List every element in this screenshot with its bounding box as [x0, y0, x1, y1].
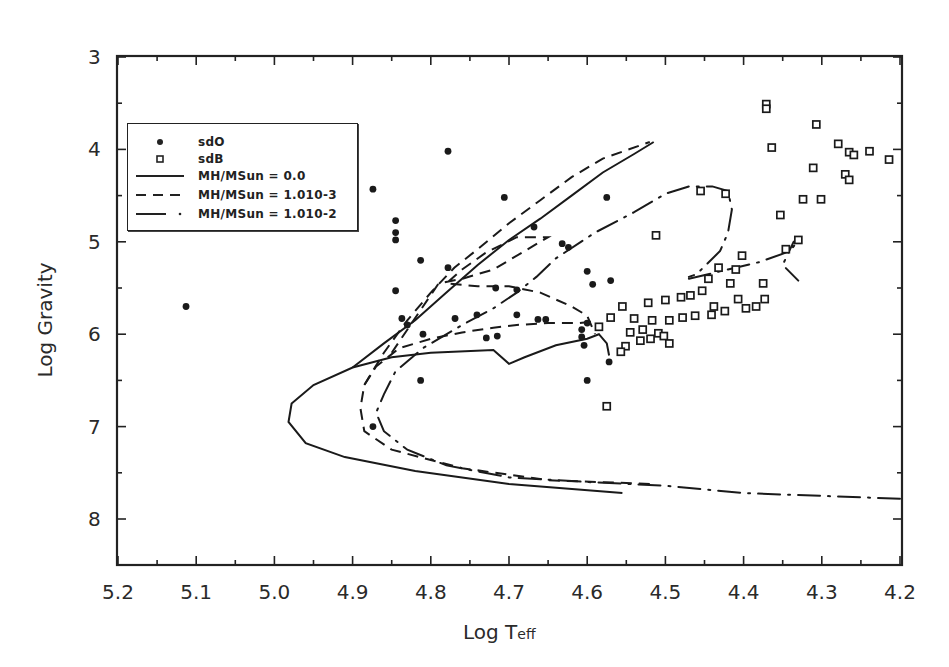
dash-dot-line-icon [128, 206, 190, 222]
x-tick-label: 4.5 [649, 580, 681, 604]
sdb-point [850, 151, 857, 158]
sdb-point [710, 303, 717, 310]
legend: sdO sdB MH/MSun = 0.0 MH/MSun = 1.010-3 … [127, 123, 358, 231]
sdb-point [679, 314, 686, 321]
sdb-point [692, 312, 699, 319]
sdo-point [452, 315, 459, 322]
x-tick-label: 4.8 [415, 580, 447, 604]
solid-line-icon [128, 168, 190, 184]
sdb-point [727, 280, 734, 287]
legend-label: sdO [198, 135, 225, 149]
sdo-point [531, 224, 538, 231]
legend-item-dashdot: MH/MSun = 1.010-2 [128, 206, 337, 222]
sdo-point [398, 315, 405, 322]
sdo-point [183, 303, 190, 310]
sdo-point [404, 322, 411, 329]
sdo-point [578, 334, 585, 341]
sdb-point [637, 337, 644, 344]
sdo-point [513, 286, 520, 293]
sdo-point [483, 334, 490, 341]
x-tick-label: 4.6 [571, 580, 603, 604]
sdo-point [370, 186, 377, 193]
sdb-point [742, 305, 749, 312]
legend-item-sdb: sdB [128, 151, 224, 167]
sdo-point [392, 237, 399, 244]
y-tick-label: 8 [88, 507, 101, 531]
x-axis-label-subscript: eff [517, 626, 535, 642]
sdb-point [647, 335, 654, 342]
sdb-point [595, 323, 602, 330]
sdo-point [584, 320, 591, 327]
sdo-point [535, 316, 542, 323]
sdo-point [542, 316, 549, 323]
sdb-point [617, 348, 624, 355]
sdb-point [653, 232, 660, 239]
sdb-point [768, 144, 775, 151]
x-tick-label: 5.2 [102, 580, 134, 604]
sdb-point [846, 176, 853, 183]
sdb-point [735, 296, 742, 303]
sdb-point [697, 187, 704, 194]
legend-label: MH/MSun = 1.010-2 [198, 207, 337, 221]
sdb-point [886, 156, 893, 163]
sdb-point [715, 264, 722, 271]
legend-label: MH/MSun = 1.010-3 [198, 188, 337, 202]
sdo-point [584, 377, 591, 384]
sdb-point [810, 164, 817, 171]
sdo-point [420, 331, 427, 338]
x-tick-label: 4.7 [493, 580, 525, 604]
y-axis-label: Log Gravity [33, 262, 57, 377]
sdb-point [721, 308, 728, 315]
x-axis-label-main: Log T [463, 620, 517, 644]
track-solid [289, 334, 623, 493]
sdo-point [492, 285, 499, 292]
sdb-point [866, 148, 873, 155]
sdb-point [753, 303, 760, 310]
x-tick-label: 4.4 [728, 580, 760, 604]
sdb-point [666, 317, 673, 324]
legend-item-sdo: sdO [128, 134, 225, 150]
sdo-point [589, 281, 596, 288]
sdb-point [687, 292, 694, 299]
sdb-point [760, 280, 767, 287]
y-tick-label: 6 [88, 322, 101, 346]
x-tick-label: 5.0 [258, 580, 290, 604]
sdo-point [392, 229, 399, 236]
sdo-point [603, 194, 610, 201]
plot-area [0, 0, 949, 667]
x-tick-label: 4.9 [337, 580, 369, 604]
sdb-point [631, 315, 638, 322]
sdo-point [474, 311, 481, 318]
sdo-point [578, 326, 585, 333]
sdo-point [445, 264, 452, 271]
legend-label: sdB [198, 152, 224, 166]
model-tracks [289, 142, 901, 499]
sdb-point [639, 326, 646, 333]
sdb-point [813, 121, 820, 128]
x-tick-label: 4.2 [884, 580, 916, 604]
sdo-point [417, 257, 424, 264]
sdb-point [660, 333, 667, 340]
sdb-point [818, 196, 825, 203]
sdo-point [559, 240, 566, 247]
sdo-point [494, 333, 501, 340]
sdb-point [662, 297, 669, 304]
sdo-point [513, 311, 520, 318]
sdo-point [607, 277, 614, 284]
sdo-point [417, 377, 424, 384]
sdb-point [607, 314, 614, 321]
open-square-icon [128, 151, 190, 167]
sdo-point [606, 359, 613, 366]
y-tick-label: 7 [88, 415, 101, 439]
sdb-point [739, 252, 746, 259]
sdo-point [392, 287, 399, 294]
legend-item-solid: MH/MSun = 0.0 [128, 168, 306, 184]
sdb-point [795, 236, 802, 243]
sdo-point [565, 244, 572, 251]
sdb-point [722, 190, 729, 197]
sdb-point [666, 340, 673, 347]
x-axis-label: Log Teff [463, 620, 536, 644]
x-tick-label: 5.1 [180, 580, 212, 604]
sdb-point [649, 317, 656, 324]
y-tick-label: 4 [88, 137, 101, 161]
